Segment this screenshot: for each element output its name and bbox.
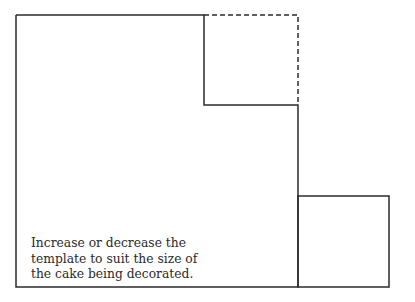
dashed-extension <box>204 15 298 105</box>
side-square-piece <box>298 196 389 287</box>
caption-line-2: template to suit the size of <box>31 252 231 268</box>
caption-line-3: the cake being decorated. <box>31 267 231 283</box>
caption-line-1: Increase or decrease the <box>31 236 231 252</box>
instruction-caption: Increase or decrease the template to sui… <box>31 236 231 283</box>
